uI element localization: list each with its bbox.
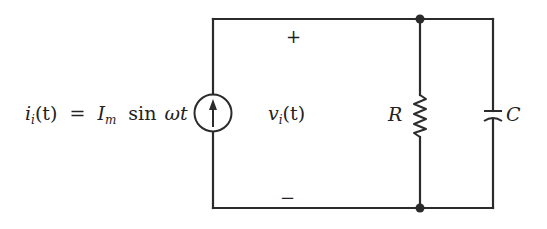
source-equation-label: ii(t) = Im sin ωt [25,102,188,128]
wires [213,19,493,208]
resistor-label: R [387,103,402,125]
capacitor-label: C [506,103,521,125]
resistor-icon [414,95,426,137]
current-source-icon [195,95,232,132]
voltage-label: vi(t) [268,102,305,127]
circuit-diagram: ii(t) = Im sin ωt vi(t) + − R C [0,0,547,229]
top-node-dot [416,15,425,24]
plus-polarity-label: + [286,26,301,47]
minus-polarity-label: − [280,187,295,208]
bottom-node-dot [416,204,425,213]
